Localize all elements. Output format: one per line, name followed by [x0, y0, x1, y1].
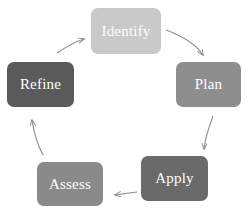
node-assess-label: Assess [49, 177, 91, 192]
node-refine-label: Refine [20, 77, 61, 92]
arrow-plan-to-apply [204, 116, 213, 149]
node-apply[interactable]: Apply [141, 156, 208, 201]
node-identify[interactable]: Identify [91, 8, 161, 54]
arrow-assess-to-refine [32, 120, 43, 155]
node-refine[interactable]: Refine [7, 62, 74, 107]
cycle-diagram: Identify Plan Apply Assess Refine [0, 0, 248, 214]
arrow-apply-to-assess [115, 192, 137, 195]
node-identify-label: Identify [101, 24, 150, 39]
arrow-identify-to-plan [166, 30, 203, 55]
arrow-refine-to-identify [57, 39, 84, 53]
node-plan-label: Plan [195, 77, 222, 92]
node-plan[interactable]: Plan [176, 62, 241, 107]
node-assess[interactable]: Assess [37, 162, 103, 206]
node-apply-label: Apply [155, 171, 194, 186]
